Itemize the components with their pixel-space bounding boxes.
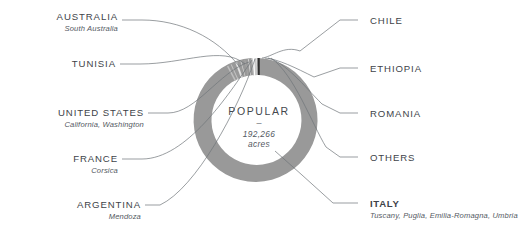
callout-france-region: Corsica [73,166,118,175]
callout-chile[interactable]: CHILE [370,15,403,26]
callout-united-states[interactable]: UNITED STATES California, Washington [58,107,144,130]
donut-chart-figure: POPULAR – 192,266 acres AUSTRALIA South … [0,0,524,244]
leader-line-tunisia [120,56,245,64]
callout-others[interactable]: OTHERS [370,152,415,163]
callout-united-states-name: UNITED STATES [58,107,144,118]
callout-australia-region: South Australia [57,24,118,33]
callout-ethiopia[interactable]: ETHIOPIA [370,63,422,74]
center-unit: acres [199,139,319,149]
leader-line-australia [122,20,239,66]
callout-others-name: OTHERS [370,152,415,163]
center-value: 192,266 [199,129,319,139]
center-title: POPULAR [199,105,319,117]
callout-ethiopia-name: ETHIOPIA [370,63,422,74]
donut-center-label: POPULAR – 192,266 acres [199,105,319,149]
callout-france[interactable]: FRANCE Corsica [73,153,118,176]
callout-united-states-region: California, Washington [58,120,144,129]
callout-france-name: FRANCE [73,153,118,164]
callout-argentina-name: ARGENTINA [77,199,141,210]
center-divider: – [199,118,319,128]
callout-argentina[interactable]: ARGENTINA Mendoza [77,199,141,222]
leader-line-chile [262,20,358,58]
callout-tunisia-name: TUNISIA [72,58,116,69]
callout-chile-name: CHILE [370,15,403,26]
callout-italy-region: Tuscany, Puglia, Emilia-Romagna, Umbria [370,211,522,220]
donut-segment-chile[interactable] [257,58,259,75]
callout-australia[interactable]: AUSTRALIA South Australia [57,11,118,34]
callout-argentina-region: Mendoza [77,212,141,221]
callout-italy-name: ITALY [370,198,522,209]
callout-romania-name: ROMANIA [370,108,421,119]
callout-australia-name: AUSTRALIA [57,11,118,22]
callout-romania[interactable]: ROMANIA [370,108,421,119]
callout-italy[interactable]: ITALY Tuscany, Puglia, Emilia-Romagna, U… [370,198,522,221]
callout-tunisia[interactable]: TUNISIA [72,58,116,69]
